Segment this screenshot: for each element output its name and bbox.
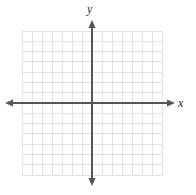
y-axis-label: y bbox=[87, 3, 92, 15]
graph-background bbox=[0, 0, 196, 195]
coordinate-plane-graph bbox=[0, 0, 196, 195]
x-axis-label: x bbox=[178, 97, 183, 109]
